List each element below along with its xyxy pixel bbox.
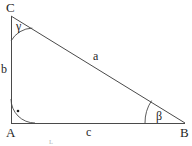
vertex-label-b: B — [180, 126, 189, 139]
edge-clipped-glyph: ʟ — [49, 137, 53, 146]
side-label-a: a — [93, 50, 98, 62]
vertex-label-a: A — [6, 126, 15, 139]
side-a-line — [11, 16, 185, 123]
triangle-figure — [0, 0, 192, 146]
angle-label-beta: β — [156, 110, 162, 122]
right-angle-dot-icon — [17, 110, 20, 113]
angle-arc-right-a — [11, 99, 35, 123]
vertex-label-c: C — [6, 1, 15, 14]
angle-arc-gamma — [11, 28, 32, 41]
angle-label-gamma: γ — [16, 20, 21, 32]
angle-arc-beta — [145, 101, 152, 123]
side-label-c: c — [86, 126, 91, 138]
side-label-b: b — [1, 63, 7, 75]
